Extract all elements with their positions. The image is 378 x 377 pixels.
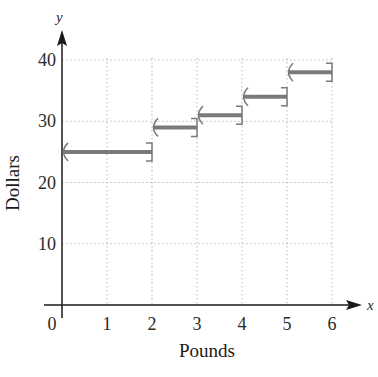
y-tick-label: 20: [38, 173, 56, 193]
step-segment: [288, 63, 332, 81]
y-tick-label: 40: [38, 50, 56, 70]
x-tick-label: 2: [148, 314, 157, 334]
step-chart: 012345610203040 x y Pounds Dollars: [0, 0, 378, 377]
x-tick-label: 5: [283, 314, 292, 334]
y-axis-label: Dollars: [2, 155, 23, 211]
x-axis-variable: x: [366, 297, 374, 313]
step-segment: [243, 88, 287, 106]
x-tick-label: 0: [48, 314, 57, 334]
x-tick-label: 4: [238, 314, 247, 334]
x-tick-label: 1: [103, 314, 112, 334]
x-axis-label: Pounds: [179, 340, 235, 361]
y-tick-label: 30: [38, 111, 56, 131]
x-tick-label: 3: [193, 314, 202, 334]
tick-labels: 012345610203040: [38, 50, 337, 334]
y-tick-label: 10: [38, 234, 56, 254]
x-tick-label: 6: [328, 314, 337, 334]
y-axis-variable: y: [54, 9, 63, 25]
grid-lines: [62, 58, 334, 305]
